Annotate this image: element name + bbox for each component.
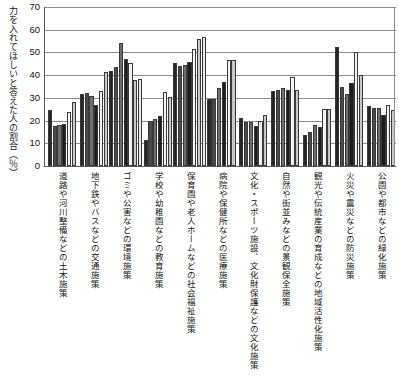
bar <box>158 116 162 166</box>
bar-group <box>109 7 142 166</box>
bar <box>80 94 84 166</box>
bar-group <box>173 7 206 166</box>
bar-group <box>207 7 235 166</box>
bar-group <box>48 7 76 166</box>
bar <box>349 83 353 166</box>
bar <box>281 88 285 166</box>
x-axis-label: 学校や幼稚園などの教育施策 <box>150 172 163 289</box>
x-axis-label: 自然や街並みなどの景観保全施策 <box>277 172 290 307</box>
bar <box>271 91 275 166</box>
bar <box>67 112 71 167</box>
bar-group <box>80 7 108 166</box>
bar <box>99 91 103 166</box>
bar-group <box>367 7 395 166</box>
bar <box>89 96 93 166</box>
bar <box>72 102 76 166</box>
bar-chart: 力を入れてほしいと答えた人の割合（％） 010203040506070 道路や河… <box>0 0 399 392</box>
bar <box>231 60 235 166</box>
x-axis-label: 地下鉄やバスなどの交通施策 <box>86 172 99 289</box>
bar <box>124 59 128 166</box>
x-axis-label: 観光や伝統産業の育成などの地域活性化施策 <box>309 172 322 352</box>
bar <box>217 88 221 166</box>
bar <box>367 106 371 166</box>
bar <box>377 108 381 166</box>
bar <box>57 125 61 166</box>
bar-group <box>239 7 267 166</box>
y-tick-label-20: 20 <box>20 116 40 126</box>
bar <box>386 105 390 166</box>
bar <box>254 126 258 166</box>
bar <box>207 99 211 166</box>
bar <box>327 109 331 166</box>
bar-group <box>271 7 299 166</box>
bar <box>53 126 57 166</box>
bar <box>153 119 157 166</box>
y-axis-title: 力を入れてほしいと答えた人の割合（％） <box>2 6 18 186</box>
bar <box>318 127 322 166</box>
x-axis-label: 文化・スポーツ施設、文化財保護などの文化施策 <box>245 172 258 370</box>
bar <box>85 93 89 166</box>
x-axis-label: ゴミや公害などの環境施策 <box>118 172 131 280</box>
bar <box>313 125 317 166</box>
y-tick-label-60: 60 <box>20 25 40 35</box>
bar-group <box>303 7 331 166</box>
bar-group <box>335 7 363 166</box>
bar <box>227 60 231 166</box>
y-tick-label-50: 50 <box>20 47 40 57</box>
bar-group <box>144 7 172 166</box>
bar <box>148 121 152 166</box>
bar <box>183 65 187 166</box>
bar <box>202 37 206 166</box>
bar <box>104 72 108 166</box>
x-axis-label: 公園や都市などの緑化施策 <box>373 172 386 280</box>
x-axis-label: 病院や保健所などの医療施策 <box>214 172 227 289</box>
bar <box>133 80 137 166</box>
bar <box>138 79 142 166</box>
bar <box>239 118 243 166</box>
y-tick-label-70: 70 <box>20 2 40 12</box>
bar <box>276 90 280 166</box>
bar <box>212 99 216 166</box>
bar <box>345 94 349 166</box>
bar <box>173 63 177 166</box>
bar <box>109 71 113 166</box>
y-tick-label-40: 40 <box>20 70 40 80</box>
bar <box>128 63 132 166</box>
bar <box>249 122 253 166</box>
bar <box>286 90 290 166</box>
bar <box>372 108 376 166</box>
bar <box>178 66 182 166</box>
bar <box>119 43 123 166</box>
bar <box>94 105 98 166</box>
plot-right-border <box>394 7 395 167</box>
bar <box>192 49 196 166</box>
y-tick-label-30: 30 <box>20 93 40 103</box>
bar <box>187 62 191 166</box>
bar <box>244 122 248 166</box>
plot-area <box>44 7 396 167</box>
bar <box>144 140 148 166</box>
y-tick-label-10: 10 <box>20 138 40 148</box>
x-axis-label: 保育園や老人ホームなどの社会福祉施策 <box>182 172 195 334</box>
bar <box>48 110 52 166</box>
bar <box>258 121 262 166</box>
bar <box>381 115 385 166</box>
bar <box>168 97 172 166</box>
bar <box>335 47 339 166</box>
bar <box>359 75 363 166</box>
bar <box>290 77 294 166</box>
bar <box>354 52 358 166</box>
y-tick-label-0: 0 <box>20 161 40 171</box>
bar <box>303 135 307 166</box>
bar <box>322 109 326 166</box>
bar <box>163 92 167 166</box>
bar <box>263 115 267 166</box>
bar <box>308 132 312 166</box>
x-axis-label: 道路や河川整備などの土木施策 <box>54 172 67 298</box>
bar <box>114 67 118 166</box>
bar <box>197 39 201 166</box>
bar <box>340 87 344 167</box>
x-axis-label: 火災や震災などの防災施策 <box>341 172 354 280</box>
bar <box>222 82 226 166</box>
bar <box>62 124 66 166</box>
